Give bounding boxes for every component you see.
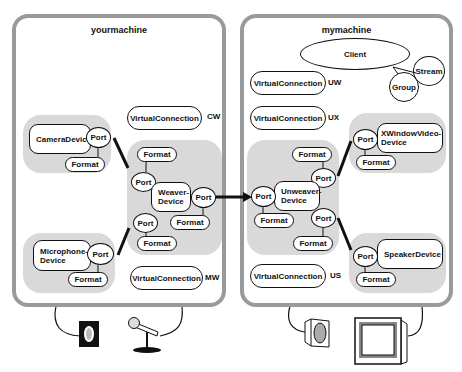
xwindow-port[interactable]: Port (353, 129, 378, 150)
unweaver-device[interactable]: Unweaver- Device (274, 181, 320, 211)
speaker-port[interactable]: Port (353, 246, 378, 267)
weaver-format-top[interactable]: Format (137, 147, 177, 162)
weaver-port-right[interactable]: Port (191, 187, 216, 208)
weaver-format-bottom[interactable]: Format (137, 236, 177, 251)
microphone-format[interactable]: Format (68, 272, 108, 287)
camera-format[interactable]: Format (65, 157, 105, 172)
microphone-port[interactable]: Port (87, 243, 114, 265)
virtual-connection-cw[interactable]: VirtualConnection (127, 106, 202, 130)
monitor-icon (353, 316, 409, 366)
virtual-connection-us[interactable]: VirtualConnection (250, 264, 326, 288)
vc-label-ux: UX (328, 113, 339, 122)
weaver-port-bottom[interactable]: Port (133, 213, 158, 233)
speaker-device[interactable]: SpeakerDevice (377, 239, 443, 269)
speaker-icon (304, 318, 330, 348)
unweaver-port-left[interactable]: Port (251, 186, 276, 207)
camera-port[interactable]: Port (86, 127, 111, 148)
xwindow-format[interactable]: Format (356, 155, 396, 170)
virtual-connection-ux[interactable]: VirtualConnection (250, 106, 326, 130)
virtual-connection-mw[interactable]: VirtualConnection (130, 266, 203, 290)
vc-label-uw: UW (328, 78, 341, 87)
microphone-icon (126, 316, 166, 354)
group-node[interactable]: Group (389, 72, 419, 102)
yourmachine-title: yourmachine (16, 25, 222, 35)
unweaver-port-bottom[interactable]: Port (311, 208, 336, 228)
microphone-device[interactable]: Microphone- Device (33, 240, 91, 271)
unweaver-format-left[interactable]: Format (254, 213, 294, 228)
virtual-connection-uw[interactable]: VirtualConnection (250, 71, 326, 95)
client-node[interactable]: Client (300, 38, 410, 70)
vc-label-us: US (330, 271, 341, 280)
speaker-format[interactable]: Format (356, 272, 396, 287)
vc-label-cw: CW (207, 112, 220, 121)
unweaver-format-top[interactable]: Format (292, 147, 332, 162)
unweaver-format-bottom[interactable]: Format (293, 236, 333, 251)
camera-device[interactable]: CameraDevice (29, 124, 91, 154)
camera-icon (78, 320, 100, 348)
xwindow-device[interactable]: XWindowVideo- Device (377, 123, 443, 153)
weaver-device[interactable]: Weaver- Device (151, 182, 191, 212)
mymachine-title: mymachine (244, 25, 449, 35)
vc-label-mw: MW (205, 273, 219, 282)
weaver-format-right[interactable]: Format (170, 215, 210, 230)
